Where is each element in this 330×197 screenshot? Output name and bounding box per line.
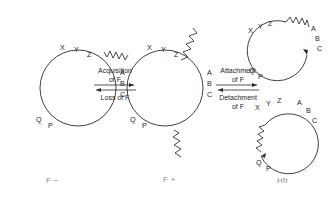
gene-label-p-hfr-bottom: P	[266, 164, 271, 173]
state-label-hfr: Hfr	[277, 176, 289, 185]
reaction2-reverse-label-line1: Detachment	[219, 94, 257, 101]
gene-label-z-hfr-bottom: Z	[277, 96, 282, 105]
cell-hfr-top: X Y Z A B C Q P	[247, 17, 322, 81]
gene-label-y: Y	[74, 45, 79, 54]
gene-label-a-hfr-top: A	[311, 24, 316, 33]
reverse-arrowhead-1	[96, 88, 101, 92]
reaction-forward-label-line1: Acquisition	[98, 67, 132, 75]
gene-label-z-hfr-top: Z	[268, 19, 273, 28]
diagram-canvas: X Y Z A B C Q P Acquisition of F Loss of…	[0, 0, 330, 197]
gene-label-q-hfr-bottom: Q	[256, 158, 262, 167]
state-label-f-minus: F −	[46, 176, 59, 185]
cell-hfr-bottom: X Y Z A B C Q P	[255, 96, 318, 174]
reverse-arrowhead-2	[218, 88, 223, 92]
f-factor-zigzag-acquisition	[104, 51, 128, 60]
cell-f-plus: X Y Z A B C Q P	[127, 28, 212, 157]
gene-label-y-hfr-bottom: Y	[266, 99, 271, 108]
chromosome-arc-hfr-top	[247, 21, 307, 81]
chromosome-circle-f-minus	[40, 50, 116, 126]
gene-label-c-hfr-bottom: C	[312, 116, 317, 125]
conjugation-diagram: X Y Z A B C Q P Acquisition of F Loss of…	[0, 0, 330, 197]
reaction-reverse-label-line1: Loss of F	[101, 94, 130, 101]
forward-arrowhead-2	[252, 83, 257, 87]
gene-label-x: X	[60, 43, 65, 52]
gene-label-c-hfr-top: C	[317, 44, 322, 53]
gene-label-b-fplus: B	[207, 79, 212, 88]
gene-label-x-fplus: X	[147, 43, 152, 52]
f-factor-integrated-hfr-bottom	[256, 125, 265, 152]
reaction-forward-label-line2: of F	[109, 76, 121, 83]
gene-label-x-hfr-bottom: X	[255, 103, 260, 112]
gene-label-q-hfr-top: Q	[249, 66, 255, 75]
gene-label-c-fplus: C	[207, 90, 212, 99]
gene-label-y-fplus: Y	[161, 45, 166, 54]
f-factor-integrated-hfr-top	[286, 17, 309, 27]
gene-label-q-fplus: Q	[130, 115, 136, 124]
gene-label-y-hfr-top: Y	[258, 22, 263, 31]
gene-label-p-fplus: P	[142, 121, 147, 130]
gene-label-b-hfr-bottom: B	[306, 106, 311, 115]
chromosome-circle-f-plus	[127, 50, 203, 126]
gene-label-z: Z	[87, 50, 92, 59]
gene-label-b-hfr-top: B	[315, 34, 320, 43]
gene-label-a-hfr-bottom: A	[297, 98, 302, 107]
reaction2-forward-label-line2: of F	[232, 76, 244, 83]
f-factor-zigzag-lower	[173, 130, 181, 157]
gene-label-p-hfr-top: P	[258, 72, 263, 81]
gene-label-q: Q	[36, 115, 42, 124]
gene-label-x-hfr-top: X	[248, 26, 253, 35]
state-label-f-plus: F +	[163, 175, 176, 184]
reaction2-reverse-label-line2: of F	[232, 103, 244, 110]
gene-label-p: P	[48, 121, 53, 130]
forward-arrowhead-1	[129, 83, 134, 87]
hfr-top-direction-arrowhead	[303, 49, 308, 55]
gene-label-a-fplus: A	[207, 68, 212, 77]
reaction-acquisition-loss: Acquisition of F Loss of F	[94, 51, 136, 101]
gene-label-z-fplus: Z	[174, 50, 179, 59]
